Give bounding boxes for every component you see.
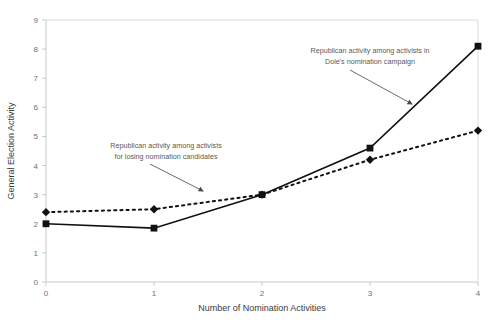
x-tick-label: 0 <box>44 289 49 298</box>
x-tick-label: 3 <box>368 289 373 298</box>
y-tick-label: 0 <box>34 278 39 287</box>
data-point-square <box>43 220 50 227</box>
y-tick-label: 8 <box>34 45 39 54</box>
y-tick-label: 6 <box>34 103 39 112</box>
x-tick-label: 1 <box>152 289 157 298</box>
x-axis-title: Number of Nomination Activities <box>198 303 326 313</box>
line-chart: 0123456789 01234 General Election Activi… <box>0 0 498 323</box>
chart-container: 0123456789 01234 General Election Activi… <box>0 0 498 323</box>
y-tick-label: 7 <box>34 74 39 83</box>
annotation-dole-campaign-line1: Republican activity among activists in <box>310 46 429 55</box>
y-tick-label: 9 <box>34 16 39 25</box>
x-tick-label: 4 <box>476 289 481 298</box>
annotation-dole-campaign-line2: Dole's nomination campaign <box>325 57 415 66</box>
x-tick-label: 2 <box>260 289 265 298</box>
annotation-losing-candidates-line2: for losing nomination candidates <box>114 152 217 161</box>
y-tick-label: 4 <box>34 162 39 171</box>
y-tick-label: 5 <box>34 132 39 141</box>
y-tick-label: 2 <box>34 220 39 229</box>
data-point-square <box>151 225 158 232</box>
y-tick-label: 1 <box>34 249 39 258</box>
data-point-square <box>367 145 374 152</box>
annotation-losing-candidates-line1: Republican activity among activists <box>110 141 222 150</box>
y-tick-label: 3 <box>34 191 39 200</box>
data-point-square <box>475 43 482 50</box>
y-axis-title: General Election Activity <box>6 102 16 200</box>
